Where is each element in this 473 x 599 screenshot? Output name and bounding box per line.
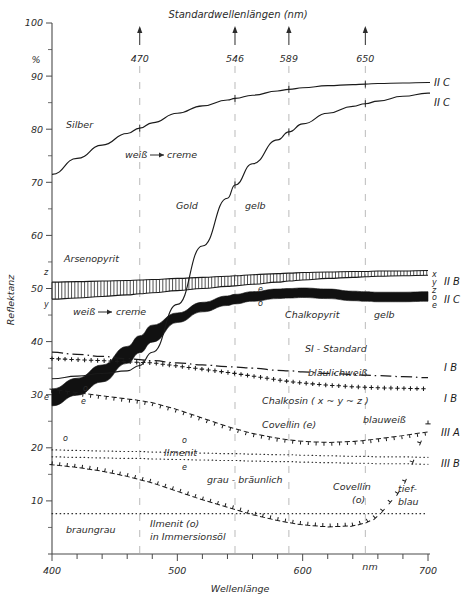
annotation-blauweiss: blauweiß xyxy=(363,414,406,425)
y-tick-label-70: 70 xyxy=(31,177,43,188)
y-tick-label-80: 80 xyxy=(31,124,43,135)
annotation-silber: Silber xyxy=(66,119,94,130)
marker-o-left: o xyxy=(83,384,88,393)
marker-ilmenit-o: o xyxy=(182,436,187,445)
annotation-ilmenit: Ilmenit xyxy=(164,447,198,458)
y-tick-label-20: 20 xyxy=(31,442,43,453)
right-marker-e-cp: e xyxy=(432,301,437,310)
annotation-gelb-chalkopyrit: gelb xyxy=(374,309,395,320)
annotation-weiss-creme-2-b: creme xyxy=(116,306,146,317)
annotation-si-standard: SI - Standard xyxy=(305,343,368,354)
right-label-silber: II C xyxy=(434,77,450,88)
annotation-covellin-o-sub: (o) xyxy=(352,494,365,505)
right-label-gold: II C xyxy=(434,97,450,108)
marker-z-left: z xyxy=(43,268,49,277)
marker-e-left-1: e xyxy=(44,393,49,402)
marker-o-chalkopyrit: o xyxy=(258,299,263,308)
annotation-covellin-o: Covellin xyxy=(333,481,371,492)
x-axis-title: Wellenlänge xyxy=(211,583,270,594)
y-tick-label-90: 90 xyxy=(31,71,43,82)
wavelength-label-650: 650 xyxy=(356,53,374,64)
annotation-arsenopyrit: Arsenopyrit xyxy=(63,253,120,264)
right-label-covellin-e: III A xyxy=(441,427,460,438)
y-tick-label-100: 100 xyxy=(25,17,43,28)
annotation-ilmenit-immersion-1: Ilmenit (o) xyxy=(150,518,199,529)
right-label-ilmenit: III B xyxy=(441,458,460,469)
x-tick-label-500: 500 xyxy=(168,565,186,576)
chart-canvas: Standardwellenlängen (nm) 470546589650 1… xyxy=(0,0,473,599)
marker-e-left-2: e xyxy=(81,397,86,406)
annotation-weiss-creme-1-b: creme xyxy=(167,149,197,160)
y-tick-label-30: 30 xyxy=(31,389,43,400)
annotation-covellin-e: Covellin (e) xyxy=(262,419,316,430)
annotation-gold: Gold xyxy=(176,200,199,211)
wavelength-label-589: 589 xyxy=(280,53,298,64)
y-tick-label-50: 50 xyxy=(31,283,43,294)
y-tick-label-60: 60 xyxy=(31,230,43,241)
annotation-blaeulichweiss: bläulichweiß xyxy=(308,367,367,378)
right-label-chalkosin: I B xyxy=(444,393,457,404)
right-label-si-standard: I B xyxy=(444,362,457,373)
annotation-grau-braeunlich: grau - bräunlich xyxy=(207,474,283,485)
marker-o-covellin-left: o xyxy=(63,434,68,443)
wavelength-label-470: 470 xyxy=(131,53,149,64)
x-tick-label-400: 400 xyxy=(43,565,61,576)
marker-e-chalkopyrit: e xyxy=(258,285,263,294)
annotation-chalkopyrit: Chalkopyrit xyxy=(285,309,341,320)
y-tick-label-10: 10 xyxy=(31,495,43,506)
annotation-ilmenit-immersion-2: in Immersionsöl xyxy=(150,531,226,542)
annotation-blau: blau xyxy=(398,496,419,507)
x-tick-label-700: 700 xyxy=(419,565,437,576)
marker-y-left: y xyxy=(43,300,49,309)
annotation-chalkosin: Chalkosin ( x ~ y ~ z ) xyxy=(262,395,369,406)
reflectance-chart-figure: Standardwellenlängen (nm) 470546589650 1… xyxy=(0,0,473,599)
standard-wavelengths-title: Standardwellenlängen (nm) xyxy=(168,9,307,20)
x-tick-label-600: 600 xyxy=(294,565,312,576)
marker-ilmenit-e: e xyxy=(182,463,187,472)
annotation-tief: tief- xyxy=(398,483,417,494)
annotation-weiss-creme-1-a: weiß xyxy=(125,149,147,160)
x-axis-unit: nm xyxy=(362,561,377,572)
y-axis-unit: % xyxy=(31,54,40,65)
right-label-arsenopyrit: II B xyxy=(444,276,460,287)
wavelength-label-546: 546 xyxy=(226,53,244,64)
right-label-chalkopyrit: II C xyxy=(444,294,460,305)
y-axis-title: Reflektanz xyxy=(5,274,16,325)
y-tick-label-40: 40 xyxy=(31,336,43,347)
annotation-weiss-creme-2-a: weiß xyxy=(73,306,95,317)
annotation-braungrau: braungrau xyxy=(66,524,116,535)
annotation-gelb-gold: gelb xyxy=(245,200,266,211)
